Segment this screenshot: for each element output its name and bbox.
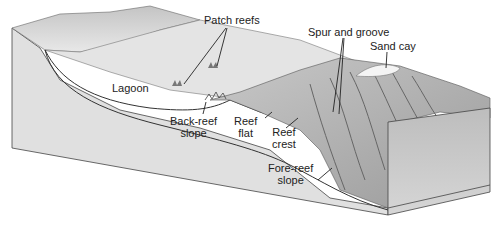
label-sand-cay: Sand cay bbox=[370, 40, 416, 52]
label-fore-reef-slope: Fore-reef slope bbox=[268, 162, 313, 186]
leader-forereef bbox=[318, 168, 332, 180]
label-reef-flat-line1: Reef bbox=[234, 115, 257, 127]
label-lagoon: Lagoon bbox=[112, 82, 149, 94]
label-back-reef-line2: slope bbox=[170, 127, 217, 139]
label-fore-reef-line1: Fore-reef bbox=[268, 162, 313, 174]
label-back-reef-line1: Back-reef bbox=[170, 115, 217, 127]
label-patch-reefs: Patch reefs bbox=[204, 14, 260, 26]
label-fore-reef-line2: slope bbox=[268, 174, 313, 186]
block-front-face bbox=[388, 108, 490, 215]
label-reef-crest-line2: crest bbox=[272, 138, 296, 150]
label-reef-crest: Reef crest bbox=[272, 126, 296, 150]
label-reef-flat-line2: flat bbox=[234, 127, 257, 139]
label-back-reef-slope: Back-reef slope bbox=[170, 115, 217, 139]
label-reef-crest-line1: Reef bbox=[272, 126, 296, 138]
label-spur-and-groove: Spur and groove bbox=[308, 26, 389, 38]
label-reef-flat: Reef flat bbox=[234, 115, 257, 139]
